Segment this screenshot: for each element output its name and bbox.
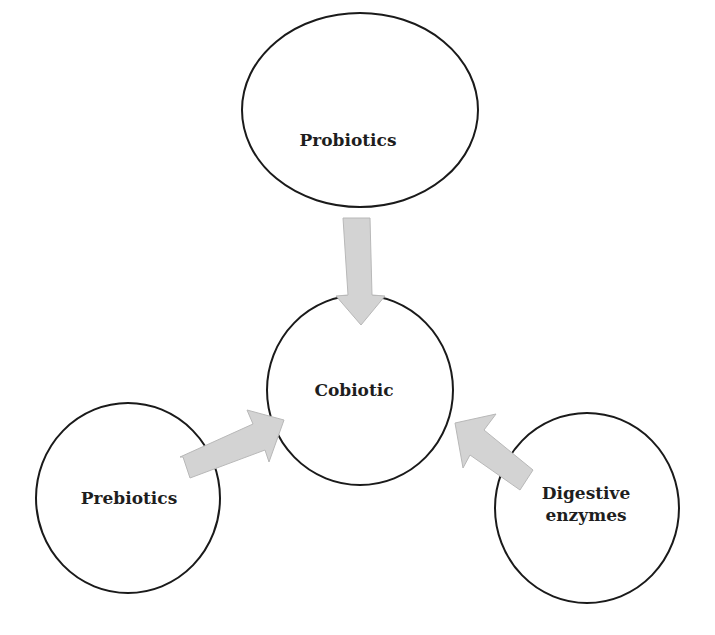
cobiotic-label: Cobiotic [314, 379, 393, 401]
probiotics-label: Probiotics [300, 129, 397, 151]
digestive-enzymes-label-line1: Digestive [542, 482, 630, 504]
digestive-enzymes-label-line2: enzymes [542, 504, 630, 526]
digestive-enzymes-label: Digestive enzymes [542, 482, 630, 526]
diagram-canvas [0, 0, 715, 635]
probiotics-node [242, 13, 478, 207]
prebiotics-label: Prebiotics [81, 487, 177, 509]
